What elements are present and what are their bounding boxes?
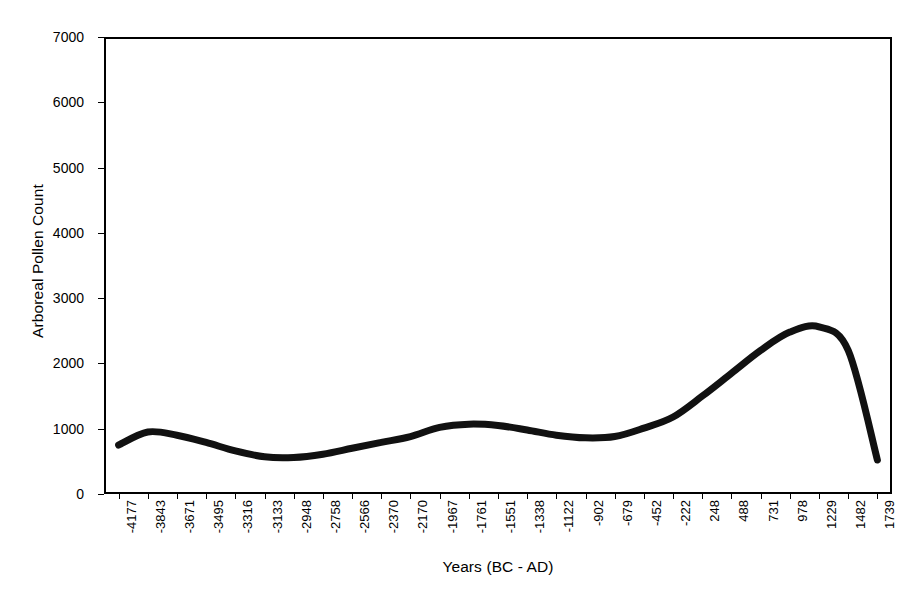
x-axis-tick-mark <box>352 494 353 499</box>
x-axis-tick-label: -3133 <box>270 500 285 533</box>
y-axis-tick-label: 3000 <box>53 290 84 306</box>
y-axis-tick-label: 7000 <box>53 29 84 45</box>
x-axis-tick-mark <box>469 494 470 499</box>
x-axis-tick-mark <box>119 494 120 499</box>
x-axis-tick-mark <box>498 494 499 499</box>
x-axis-tick-label: -1122 <box>561 500 576 532</box>
y-axis-tick-label-group: 01000200030004000500060007000 <box>0 0 96 601</box>
y-axis-tick-label: 0 <box>76 486 84 502</box>
x-axis-tick-label: 488 <box>736 500 751 522</box>
x-axis-tick-mark <box>323 494 324 499</box>
x-axis-tick-label: -902 <box>591 500 606 526</box>
x-axis-tick-mark <box>527 494 528 499</box>
x-axis-tick-label: -222 <box>678 500 693 526</box>
x-axis-title: Years (BC - AD) <box>104 558 892 576</box>
x-axis-tick-label: -4177 <box>124 500 139 533</box>
x-axis-tick-label: -3671 <box>182 500 197 533</box>
x-axis-tick-mark <box>673 494 674 499</box>
x-axis-tick-label: -1761 <box>474 500 489 533</box>
x-axis-tick-label: -2170 <box>415 500 430 533</box>
x-axis-tick-label: -2370 <box>386 500 401 533</box>
x-axis-tick-mark <box>148 494 149 499</box>
x-axis-tick-mark <box>410 494 411 499</box>
x-axis-tick-mark <box>731 494 732 499</box>
x-axis-tick-label: -452 <box>649 500 664 526</box>
x-axis-tick-label: 248 <box>707 500 722 522</box>
x-axis-tick-mark <box>556 494 557 499</box>
x-axis-tick-mark <box>177 494 178 499</box>
x-axis-tick-label: -1338 <box>532 500 547 533</box>
y-axis-tick-label: 4000 <box>53 225 84 241</box>
y-axis-tick-label: 1000 <box>53 421 84 437</box>
y-axis-tick-label: 2000 <box>53 355 84 371</box>
x-axis-tick-mark <box>440 494 441 499</box>
x-axis-tick-mark <box>761 494 762 499</box>
x-axis-tick-label: -679 <box>620 500 635 526</box>
x-axis-tick-label: 731 <box>766 500 781 522</box>
x-axis-tick-label: 1229 <box>824 500 839 529</box>
x-axis-tick-mark <box>877 494 878 499</box>
data-series-line <box>104 37 892 494</box>
x-axis-tick-label: -2948 <box>299 500 314 533</box>
x-axis-tick-label: -1551 <box>503 500 518 533</box>
y-axis-tick-label: 5000 <box>53 160 84 176</box>
x-axis-tick-mark <box>265 494 266 499</box>
x-axis-tick-mark <box>615 494 616 499</box>
x-axis-tick-label: -3495 <box>211 500 226 533</box>
x-axis-tick-mark <box>206 494 207 499</box>
x-axis-tick-mark <box>790 494 791 499</box>
x-axis-tick-mark <box>644 494 645 499</box>
x-axis-tick-label: -3316 <box>240 500 255 533</box>
x-axis-tick-mark <box>702 494 703 499</box>
x-axis-tick-mark <box>586 494 587 499</box>
x-axis-tick-label: -1967 <box>445 500 460 533</box>
x-axis-tick-mark <box>848 494 849 499</box>
x-axis-tick-mark <box>819 494 820 499</box>
x-axis-tick-label: -2566 <box>357 500 372 533</box>
pollen-count-curve <box>119 326 878 460</box>
y-axis-tick-label: 6000 <box>53 94 84 110</box>
x-axis-tick-label: -2758 <box>328 500 343 533</box>
x-axis-tick-label: 978 <box>795 500 810 522</box>
x-axis-tick-mark <box>294 494 295 499</box>
pollen-count-chart-figure: Arboreal Pollen Count 010002000300040005… <box>0 0 917 601</box>
x-axis-tick-mark <box>381 494 382 499</box>
x-axis-tick-mark <box>235 494 236 499</box>
x-axis-tick-label: 1739 <box>882 500 897 529</box>
x-axis-tick-label: 1482 <box>853 500 868 529</box>
x-axis-tick-label: -3843 <box>153 500 168 533</box>
